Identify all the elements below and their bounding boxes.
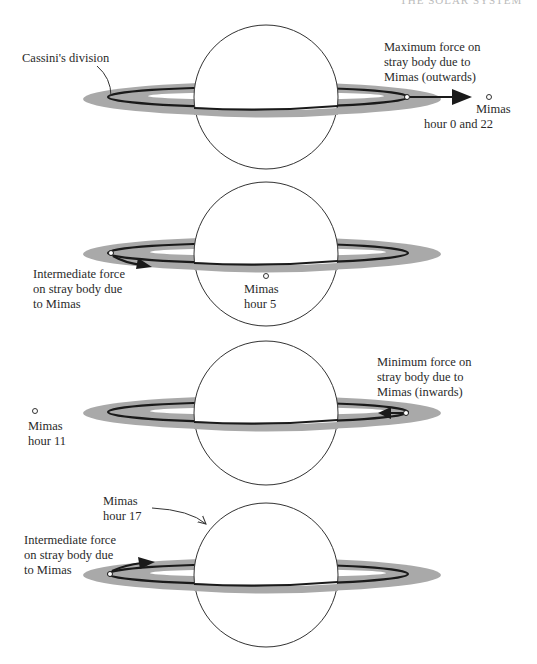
mimas-hour-label: hour 17	[103, 509, 142, 523]
saturn-planet	[194, 503, 338, 647]
force-label-line-2: on stray body due	[33, 282, 123, 296]
panel-hour-11: Minimum force on stray body due to Mimas…	[28, 341, 472, 485]
mimas-hour-label: hour 5	[244, 297, 276, 311]
mimas-label: Mimas	[476, 102, 511, 116]
stray-body	[108, 572, 113, 577]
force-label-line-2: stray body due to	[377, 370, 463, 384]
force-label-line-1: Maximum force on	[384, 40, 481, 54]
mimas-hour-label: hour 0 and 22	[424, 117, 493, 131]
force-label-line-1: Intermediate force	[24, 533, 116, 547]
saturn-mimas-resonance-diagram: THE SOLAR SYSTEM Cassini's division Maxi…	[0, 0, 537, 664]
mimas-moon	[264, 274, 269, 279]
force-label-line-3: to Mimas	[24, 563, 72, 577]
mimas-label: Mimas	[244, 282, 279, 296]
mimas-moon	[487, 95, 492, 100]
saturn-planet	[194, 341, 338, 485]
saturn-planet	[194, 25, 338, 169]
stray-body	[109, 251, 114, 256]
mimas-label: Mimas	[103, 494, 138, 508]
stray-body	[404, 411, 409, 416]
mimas-label: Mimas	[28, 419, 63, 433]
force-label-line-3: Mimas (inwards)	[377, 385, 463, 399]
cassini-division-label: Cassini's division	[22, 51, 110, 65]
panel-hour-0: Cassini's division Maximum force on stra…	[22, 25, 511, 169]
mimas-moon	[33, 409, 38, 414]
page-running-header: THE SOLAR SYSTEM	[400, 0, 522, 6]
mimas-hour-label: hour 11	[28, 434, 66, 448]
panel-hour-5: Intermediate force on stray body due to …	[33, 182, 441, 326]
force-label-line-3: to Mimas	[33, 297, 81, 311]
force-label-line-2: on stray body due	[24, 548, 114, 562]
force-label-line-2: stray body due to	[384, 55, 470, 69]
force-label-line-3: Mimas (outwards)	[384, 70, 476, 84]
stray-body	[405, 95, 410, 100]
panel-hour-17: Mimas hour 17 Intermediate force on stra…	[24, 494, 441, 647]
arrowhead-icon	[452, 89, 472, 105]
force-label-line-1: Intermediate force	[33, 267, 125, 281]
force-label-line-1: Minimum force on	[377, 355, 472, 369]
mimas-position-pointer	[152, 508, 206, 524]
